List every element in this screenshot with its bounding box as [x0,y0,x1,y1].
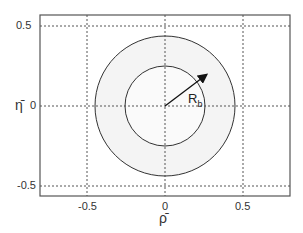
rb-sub: b [197,99,202,109]
rb-main: R [188,91,197,106]
xtick-neg0.5: -0.5 [78,201,97,212]
ytick-0: 0 [30,100,36,111]
x-axis-label: ρ̄ [159,211,167,225]
y-axis-label: η̄ [15,98,23,112]
ytick-0.5: 0.5 [16,20,31,31]
ytick-neg0.5: -0.5 [17,180,36,191]
xtick-0.5: 0.5 [235,201,250,212]
plot-canvas [0,0,303,233]
rb-annotation: Rb [188,92,202,109]
